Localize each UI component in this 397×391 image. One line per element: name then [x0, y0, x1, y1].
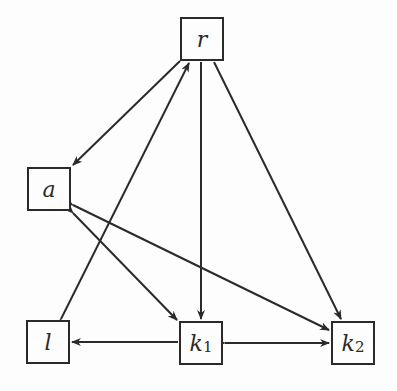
node-k1: k1 [179, 321, 223, 365]
node-label: l [44, 330, 51, 355]
node-label: k [342, 331, 355, 356]
node-a: a [27, 167, 71, 211]
node-l: l [26, 320, 70, 364]
edge-a-k1 [73, 213, 177, 320]
node-label: a [42, 177, 55, 202]
node-label: k [190, 331, 203, 356]
node-k2: k2 [331, 321, 375, 365]
node-subscript: 2 [355, 338, 365, 356]
edge-l-r [61, 63, 189, 319]
node-subscript: 1 [203, 338, 213, 356]
edge-r-k2 [214, 62, 341, 319]
node-label: r [197, 27, 208, 52]
node-r: r [180, 17, 224, 61]
